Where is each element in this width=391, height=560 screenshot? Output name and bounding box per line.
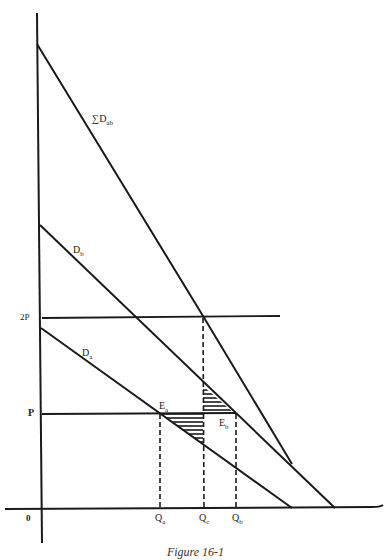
label-eb: Eb: [219, 418, 229, 431]
figure-caption: Figure 16-1: [0, 545, 391, 560]
label-da: Da: [82, 348, 92, 361]
label-db: Db: [73, 245, 84, 258]
label-2p: 2P: [20, 313, 30, 322]
price-line-2p: [42, 316, 280, 318]
shaded-triangle-upper: [203, 386, 234, 413]
price-line-p: [42, 413, 236, 414]
label-qc: Qc: [199, 513, 209, 526]
y-axis: [37, 13, 42, 543]
label-qb: Qb: [232, 513, 243, 526]
label-qa: Qa: [155, 513, 165, 526]
demand-curve-db: [40, 225, 335, 508]
label-p: P: [28, 408, 34, 418]
label-ea: Ea: [159, 401, 168, 414]
demand-curve-da: [41, 328, 292, 508]
label-origin: 0: [26, 514, 31, 523]
label-sum-dab: ∑Dab: [92, 114, 113, 127]
x-axis: [5, 505, 383, 509]
